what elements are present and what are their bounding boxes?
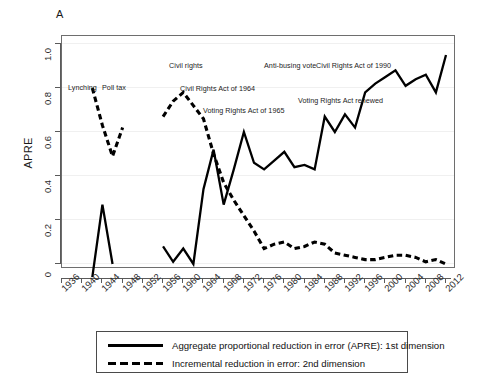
y-axis-tick (55, 87, 60, 88)
legend-swatch-dashed (108, 354, 163, 372)
chart-figure: A APRE 00.20.40.60.81.0 1936194019441948… (0, 0, 502, 390)
x-axis-tick-label: 1944 (99, 271, 122, 294)
legend-swatch-solid (108, 336, 163, 354)
x-axis-tick-label: 2004 (403, 271, 426, 294)
legend-label: Aggregate proportional reduction in erro… (172, 340, 445, 351)
annotation-civil-rights: Civil rights (169, 61, 203, 70)
x-axis-tick-label: 2008 (423, 271, 446, 294)
x-axis-tick-label: 2012 (443, 271, 466, 294)
panel-label: A (56, 8, 64, 20)
annotation-cra-1990: Civil Rights Act of 1990 (316, 61, 391, 70)
annotation-vra-renewed: Voting Rights Act renewed (298, 96, 383, 105)
y-axis-tick-label: 0.2 (42, 218, 53, 244)
y-axis-tick-label: 0 (42, 262, 53, 288)
y-axis-tick-label: 0.4 (42, 174, 53, 200)
legend-line-solid (108, 344, 163, 347)
y-axis-tick (55, 175, 60, 176)
y-axis-tick (55, 131, 60, 132)
annotation-poll-tax: Poll tax (102, 83, 126, 92)
y-axis-tick (55, 263, 60, 264)
x-axis-tick-label: 1996 (362, 271, 385, 294)
x-axis-tick-label: 1940 (79, 271, 102, 294)
annotation-vra-1965: Voting Rights Act of 1965 (203, 106, 285, 115)
x-axis-tick-label: 1952 (140, 271, 163, 294)
annotation-anti-busing: Anti-busing vote (264, 61, 316, 70)
y-axis-title: APRE (22, 123, 34, 183)
x-axis-tick-label: 1956 (160, 271, 183, 294)
x-axis-tick-label: 1992 (342, 271, 365, 294)
x-axis-tick-label: 1980 (281, 271, 304, 294)
y-axis-tick (55, 43, 60, 44)
legend-label: Incremental reduction in error: 2nd dime… (172, 358, 365, 369)
y-axis-tick (55, 219, 60, 220)
x-axis-tick-label: 1984 (302, 271, 325, 294)
plot-area (61, 35, 455, 268)
y-axis-tick-label: 1.0 (42, 42, 53, 68)
series-layer (62, 36, 456, 269)
x-axis-tick-label: 1976 (261, 271, 284, 294)
x-axis-tick-label: 1964 (200, 271, 223, 294)
series-line (92, 88, 122, 156)
x-axis-tick-label: 1972 (241, 271, 264, 294)
legend-item-apre-2nd: Incremental reduction in error: 2nd dime… (97, 354, 407, 372)
legend-item-apre-1st: Aggregate proportional reduction in erro… (97, 336, 407, 354)
y-axis-tick-label: 0.8 (42, 86, 53, 112)
legend-line-dashed (108, 362, 163, 365)
x-axis-tick-label: 1968 (221, 271, 244, 294)
y-axis-line (60, 43, 61, 264)
x-axis-tick-label: 1948 (120, 271, 143, 294)
x-axis-tick-label: 2000 (382, 271, 405, 294)
legend: Aggregate proportional reduction in erro… (96, 331, 408, 373)
x-axis-tick-label: 1960 (180, 271, 203, 294)
annotation-lynching: Lynching (68, 83, 97, 92)
x-axis-tick-label: 1988 (322, 271, 345, 294)
x-axis-tick-label: 1936 (59, 271, 82, 294)
annotation-cra-1964: Civil Rights Act of 1964 (180, 84, 255, 93)
y-axis-tick-label: 0.6 (42, 130, 53, 156)
series-line (92, 205, 112, 278)
